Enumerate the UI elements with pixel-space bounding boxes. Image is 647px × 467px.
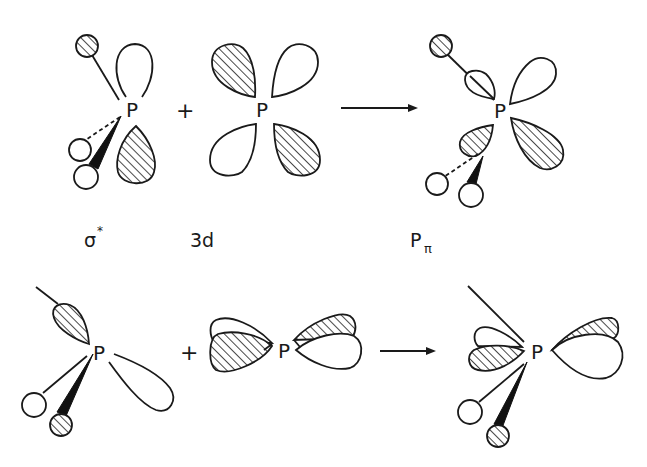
hatched-lobe-lower-right	[511, 118, 563, 169]
open-lobe-upper-right	[510, 58, 556, 104]
hatched-sphere	[50, 414, 72, 436]
hatched-lobe-lower-left	[460, 125, 493, 156]
plus-operator: +	[176, 98, 194, 123]
wedge-bond	[494, 362, 527, 428]
hatched-lobe-upper-left	[212, 44, 255, 97]
hatched-sphere	[430, 35, 452, 57]
open-lobe-upper-right	[272, 44, 318, 97]
atom-label-p: P	[531, 340, 543, 364]
atom-label-p: P	[278, 339, 290, 363]
orbital-diagram: P + P P σ * 3d	[0, 0, 647, 467]
hatched-lobe-upper-left	[53, 304, 89, 344]
hatched-lobe-lower-right	[274, 124, 320, 176]
open-lobe-lower-right	[109, 354, 173, 411]
3d-orbital-fragment: P	[210, 44, 320, 176]
bond-line	[36, 287, 58, 304]
open-sphere	[458, 400, 482, 424]
open-sphere	[426, 173, 448, 195]
wedge-bond	[89, 116, 121, 169]
reaction-arrow	[341, 104, 418, 112]
hatched-sphere	[76, 35, 98, 57]
caption-3d: 3d	[190, 229, 214, 251]
caption-sigma-star: σ *	[84, 224, 103, 251]
atom-label-p: P	[256, 98, 268, 122]
svg-text:σ: σ	[84, 229, 96, 251]
open-sphere	[69, 139, 91, 161]
open-sphere	[74, 165, 98, 189]
atom-label-p: P	[93, 341, 105, 365]
open-sphere	[459, 183, 483, 207]
bottom-middle-fragment: P	[210, 314, 361, 371]
hatched-lobe-left	[469, 346, 524, 371]
svg-text:*: *	[97, 224, 103, 238]
caption-p-pi: P π	[410, 229, 432, 256]
sigma-star-fragment: P	[69, 35, 155, 189]
svg-text:P: P	[410, 229, 421, 251]
open-lobe-left-back	[475, 327, 523, 347]
hatched-sphere	[487, 425, 509, 447]
atom-label-p: P	[126, 98, 138, 122]
open-sphere	[22, 393, 46, 417]
reaction-arrow	[380, 347, 436, 355]
bottom-right-fragment: P	[458, 286, 622, 447]
bond-line	[92, 55, 119, 100]
p-pi-fragment: P	[426, 35, 563, 207]
svg-text:π: π	[424, 241, 432, 256]
hatched-lobe-down	[117, 126, 155, 183]
plus-operator: +	[180, 340, 198, 365]
atom-label-p: P	[494, 99, 506, 123]
bottom-left-fragment: P	[22, 287, 173, 436]
open-lobe-lower-left	[210, 124, 256, 176]
wedge-bond	[57, 354, 93, 416]
open-lobe-up	[116, 44, 152, 97]
